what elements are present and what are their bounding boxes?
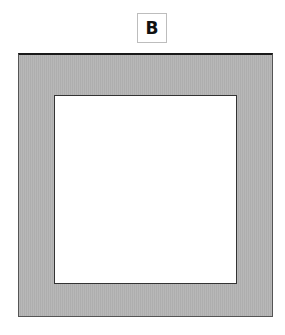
inner-square-hole <box>54 95 237 284</box>
panel-label-b: B <box>137 13 167 43</box>
square-frame <box>18 53 273 317</box>
